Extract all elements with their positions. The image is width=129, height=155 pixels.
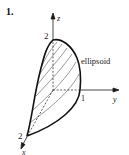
y-axis-label: y [112,95,117,104]
z-arrow-icon [51,13,55,19]
x-axis [23,137,27,144]
ellipsoid-figure: 1. z 2 y 1 x 2 ellipsoid [0,0,129,155]
z-tick-label: 2 [44,31,49,41]
y-tick-label: 1 [81,94,85,103]
visible-axes [21,13,119,149]
ellipsoid-label: ellipsoid [81,56,111,66]
z-axis-label: z [56,14,61,23]
x-tick-label: 2 [18,131,23,141]
x-axis-label: x [21,148,26,155]
y-arrow-icon [113,88,119,92]
figure-number: 1. [6,6,14,17]
